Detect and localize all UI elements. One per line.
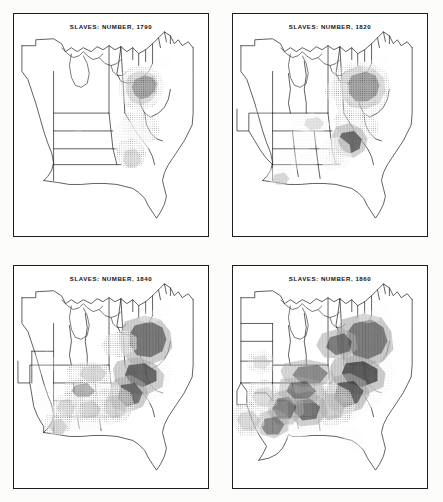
map-1860	[233, 266, 427, 488]
map-panel-grid: Slaves: Number, 1790	[13, 13, 428, 489]
figure-slave-population-maps: Slaves: Number, 1790	[0, 0, 443, 502]
map-panel-1820[interactable]: Slaves: Number, 1820	[232, 13, 428, 237]
panel-title-1790: Slaves: Number, 1790	[14, 23, 208, 30]
map-panel-1790[interactable]: Slaves: Number, 1790	[13, 13, 209, 237]
panel-title-1860: Slaves: Number, 1860	[233, 275, 427, 282]
map-1790	[14, 14, 208, 236]
map-1820	[233, 14, 427, 236]
map-panel-1860[interactable]: Slaves: Number, 1860	[232, 265, 428, 489]
panel-title-1840: Slaves: Number, 1840	[14, 275, 208, 282]
panel-title-1820: Slaves: Number, 1820	[233, 23, 427, 30]
map-panel-1840[interactable]: Slaves: Number, 1840	[13, 265, 209, 489]
map-1840	[14, 266, 208, 488]
